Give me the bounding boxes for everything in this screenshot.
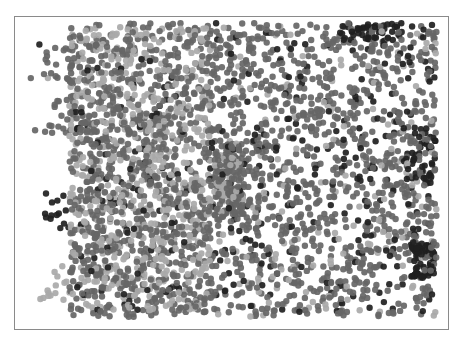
data-point bbox=[385, 35, 391, 41]
data-point bbox=[293, 23, 299, 29]
data-point bbox=[416, 53, 422, 59]
data-point bbox=[409, 285, 415, 291]
data-point bbox=[117, 269, 123, 275]
data-point bbox=[426, 68, 432, 74]
data-point bbox=[193, 222, 199, 228]
data-point bbox=[243, 236, 249, 242]
data-point bbox=[396, 110, 402, 116]
data-point bbox=[274, 270, 280, 276]
data-point bbox=[373, 35, 379, 41]
data-point bbox=[161, 118, 167, 124]
data-point bbox=[252, 82, 258, 88]
data-point bbox=[279, 208, 285, 214]
data-point bbox=[74, 86, 80, 92]
data-point bbox=[102, 189, 108, 195]
data-point bbox=[159, 287, 165, 293]
data-point bbox=[144, 287, 150, 293]
data-point bbox=[85, 292, 91, 298]
data-point bbox=[160, 229, 166, 235]
data-point bbox=[328, 280, 334, 286]
data-point bbox=[36, 41, 42, 47]
data-point bbox=[189, 67, 195, 73]
data-point bbox=[54, 98, 60, 104]
data-point bbox=[96, 81, 102, 87]
data-point bbox=[154, 235, 160, 241]
data-point bbox=[141, 198, 147, 204]
data-point bbox=[269, 127, 275, 133]
data-point bbox=[235, 32, 241, 38]
data-point bbox=[178, 248, 184, 254]
data-point bbox=[178, 25, 184, 31]
data-point bbox=[326, 194, 332, 200]
data-point bbox=[335, 107, 341, 113]
data-point bbox=[286, 74, 292, 80]
data-point bbox=[146, 181, 152, 187]
data-point bbox=[292, 280, 298, 286]
data-point bbox=[104, 44, 110, 50]
data-point bbox=[432, 151, 438, 157]
data-point bbox=[182, 200, 188, 206]
data-point bbox=[351, 281, 357, 287]
data-point bbox=[390, 203, 396, 209]
data-point bbox=[311, 153, 317, 159]
data-point bbox=[368, 232, 374, 238]
data-point bbox=[107, 215, 113, 221]
data-point bbox=[371, 58, 377, 64]
data-point bbox=[71, 55, 77, 61]
data-point bbox=[346, 262, 352, 268]
data-point bbox=[160, 159, 166, 165]
data-point bbox=[228, 51, 234, 57]
data-point bbox=[70, 312, 76, 318]
data-point bbox=[184, 39, 190, 45]
data-point bbox=[376, 217, 382, 223]
data-point bbox=[84, 36, 90, 42]
data-point bbox=[202, 234, 208, 240]
data-point bbox=[236, 125, 242, 131]
data-point bbox=[128, 81, 134, 87]
data-point bbox=[333, 128, 339, 134]
data-point bbox=[215, 191, 221, 197]
data-point bbox=[231, 77, 237, 83]
data-point bbox=[256, 267, 262, 273]
data-point bbox=[259, 306, 265, 312]
data-point bbox=[381, 263, 387, 269]
data-point bbox=[366, 148, 372, 154]
data-point bbox=[430, 135, 436, 141]
data-point bbox=[207, 90, 213, 96]
data-point bbox=[291, 267, 297, 273]
data-point bbox=[398, 77, 404, 83]
data-point bbox=[139, 241, 145, 247]
data-point bbox=[134, 259, 140, 265]
data-point bbox=[329, 245, 335, 251]
data-point bbox=[166, 24, 172, 30]
data-point bbox=[106, 165, 112, 171]
data-point bbox=[317, 79, 323, 85]
data-point bbox=[278, 108, 284, 114]
data-point bbox=[82, 210, 88, 216]
data-point bbox=[279, 227, 285, 233]
data-point bbox=[393, 41, 399, 47]
data-point bbox=[43, 214, 49, 220]
data-point bbox=[354, 162, 360, 168]
data-point bbox=[315, 220, 321, 226]
data-point bbox=[74, 284, 80, 290]
data-point bbox=[97, 151, 103, 157]
data-point bbox=[224, 168, 230, 174]
data-point bbox=[287, 217, 293, 223]
data-point bbox=[86, 113, 92, 119]
data-point bbox=[311, 54, 317, 60]
data-point bbox=[245, 156, 251, 162]
data-point bbox=[401, 125, 407, 131]
data-point bbox=[243, 254, 249, 260]
data-point bbox=[202, 295, 208, 301]
data-point bbox=[83, 301, 89, 307]
data-point bbox=[191, 184, 197, 190]
data-point bbox=[429, 44, 435, 50]
data-point bbox=[317, 161, 323, 167]
data-point bbox=[120, 220, 126, 226]
data-point bbox=[333, 164, 339, 170]
data-point bbox=[428, 244, 434, 250]
data-point bbox=[281, 92, 287, 98]
data-point bbox=[418, 251, 424, 257]
data-point bbox=[312, 171, 318, 177]
